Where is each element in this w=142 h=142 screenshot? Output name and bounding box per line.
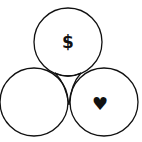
center-curved-triangle [55,73,81,105]
dollar-icon: $ [62,32,74,52]
heart-icon: ♥ [92,93,108,114]
circle-bottom-left [0,68,68,136]
venn-diagram: $ ♥ [0,0,142,142]
